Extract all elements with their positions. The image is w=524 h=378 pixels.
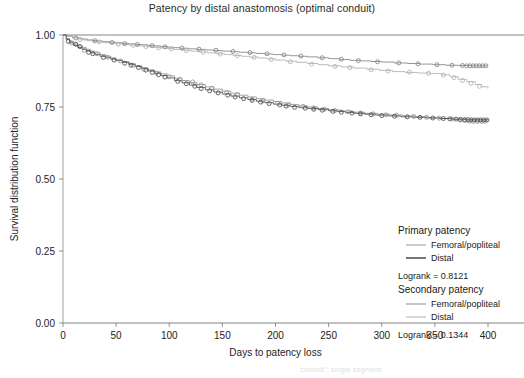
y-tick-label: 0.00 (36, 318, 56, 329)
x-axis-title: Days to patency loss (229, 347, 321, 358)
censor-mark (452, 76, 456, 80)
legend-logrank-primary: Logrank = 0.8121 (398, 271, 468, 281)
x-tick-label: 300 (373, 330, 390, 341)
y-axis-title: Survival distribution function (9, 117, 20, 242)
legend-item-label: Distal (431, 253, 454, 263)
censor-mark (310, 62, 314, 66)
censor-mark (95, 52, 99, 56)
x-tick-label: 0 (60, 330, 66, 341)
censor-mark (91, 52, 95, 56)
survival-curve (63, 35, 488, 121)
x-tick-label: 250 (320, 330, 337, 341)
x-tick-label: 50 (111, 330, 123, 341)
survival-curve (63, 35, 488, 66)
censor-mark (386, 69, 390, 73)
censor-mark (216, 91, 220, 95)
censor-mark (346, 110, 350, 114)
censor-mark (333, 64, 337, 68)
figure-container: Patency by distal anastomosis (optimal c… (0, 0, 524, 378)
censor-marks-layer (66, 36, 489, 124)
x-tick-label: 150 (214, 330, 231, 341)
censor-mark (82, 48, 86, 52)
censor-mark (112, 58, 116, 62)
legend-item-label: Distal (431, 312, 454, 322)
y-tick-label: 0.50 (36, 174, 56, 185)
x-tick-label: 100 (161, 330, 178, 341)
legend-heading-secondary: Secondary patency (398, 284, 484, 295)
censor-mark (106, 55, 110, 59)
censor-mark (269, 57, 273, 61)
survival-plot: 0.000.250.500.751.0005010015020025030035… (0, 0, 524, 378)
censor-mark (348, 66, 352, 70)
legend-logrank-secondary: Logrank = 0.1344 (398, 330, 468, 340)
x-tick-label: 200 (267, 330, 284, 341)
page-caption-fragment: conduit": single segment (300, 365, 524, 374)
legend-heading-primary: Primary patency (398, 225, 470, 236)
y-tick-label: 1.00 (36, 30, 56, 41)
censor-mark (293, 105, 297, 109)
censor-mark (288, 60, 292, 64)
censor-mark (369, 68, 373, 72)
y-tick-label: 0.25 (36, 246, 56, 257)
censor-mark (191, 80, 195, 84)
y-tick-label: 0.75 (36, 102, 56, 113)
curves-layer (63, 35, 488, 121)
censor-mark (184, 82, 188, 86)
x-tick-label: 400 (480, 330, 497, 341)
legend-item-label: Femoral/popliteal (431, 299, 500, 309)
censor-mark (267, 102, 271, 106)
legend-item-label: Femoral/popliteal (431, 240, 500, 250)
chart-title: Patency by distal anastomosis (optimal c… (0, 2, 524, 14)
censor-mark (242, 97, 246, 101)
survival-curve (63, 35, 488, 120)
